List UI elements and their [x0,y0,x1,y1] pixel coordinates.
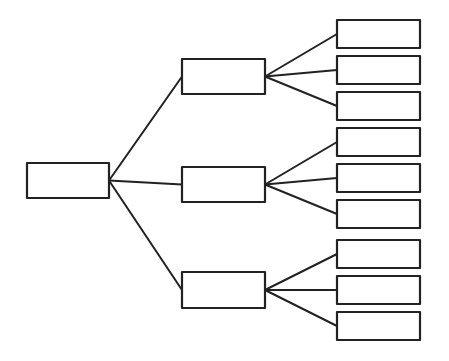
mid-node-2 [182,167,265,202]
connector-root-to-mid-3 [109,181,182,291]
connector-root-to-mid-2 [109,181,182,185]
connector-root-to-mid-1 [109,77,182,181]
leaf-node-2 [337,56,420,84]
connector-mid-2-to-leaf-3 [265,185,337,215]
leaf-node-8 [337,276,420,304]
connector-mid-3-to-leaf-1 [265,254,337,290]
connector-mid-3-to-leaf-3 [265,290,337,326]
leaf-node-7 [337,240,420,268]
tree-diagram [0,0,449,361]
leaf-node-1 [337,20,420,48]
mid-node-1 [182,59,265,94]
leaf-node-6 [337,200,420,228]
root-node [27,163,109,198]
leaf-node-4 [337,128,420,156]
mid-node-3 [182,272,265,308]
connector-mid-1-to-leaf-3 [265,77,337,107]
leaf-node-5 [337,164,420,192]
leaf-node-3 [337,92,420,120]
leaf-node-9 [337,312,420,340]
